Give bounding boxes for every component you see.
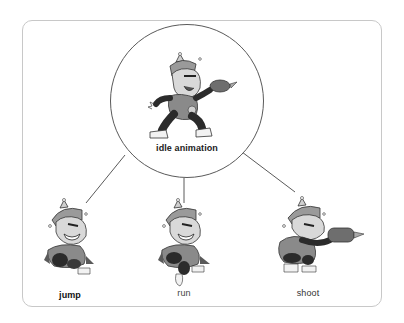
- character-run-sprite-icon: [152, 198, 222, 290]
- character-jump-sprite-icon: [38, 198, 108, 284]
- idle-animation-label: idle animation: [136, 143, 238, 153]
- edge-idle-to-jump: [86, 155, 125, 203]
- edge-idle-to-shoot: [242, 152, 295, 192]
- character-shoot-sprite-icon: [272, 196, 368, 282]
- character-idle-sprite-icon: [140, 52, 240, 142]
- jump-label: jump: [40, 290, 100, 300]
- shoot-label: shoot: [278, 288, 338, 298]
- run-label: run: [154, 288, 214, 298]
